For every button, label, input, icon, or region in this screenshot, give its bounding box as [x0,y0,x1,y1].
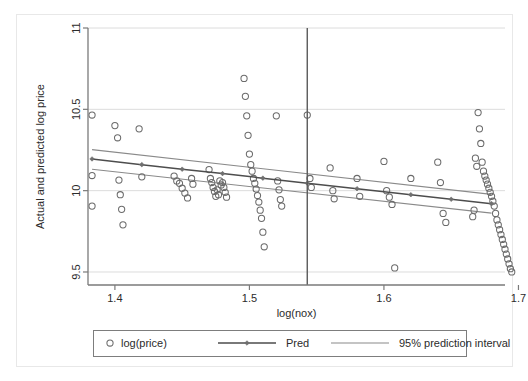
y-tick-label: 9.5 [70,264,82,279]
x-tick-label: 1.6 [376,292,391,304]
y-tick-label: 10 [70,185,82,197]
legend-label-logprice: log(price) [121,337,167,349]
y-axis-title: Actual and predicted log price [34,84,46,229]
legend-label-pred: Pred [286,337,309,349]
legend: log(price)Pred95% prediction interval [94,331,511,357]
y-tick-label: 11 [70,22,82,33]
legend-label-interval: 95% prediction interval [399,337,510,349]
x-axis-title: log(nox) [277,307,317,319]
y-tick-label: 10.5 [70,99,82,120]
x-tick-label: 1.5 [242,292,257,304]
x-tick-label: 1.4 [107,292,122,304]
x-tick-label: 1.7 [511,292,526,304]
chart-figure: 9.51010.5111.41.51.61.7log(nox)Actual an… [0,0,528,381]
